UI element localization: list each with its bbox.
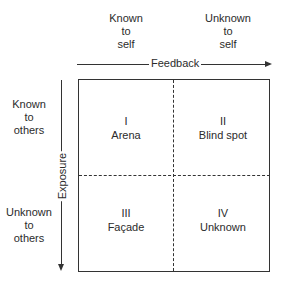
column-header-line: to [200, 25, 256, 38]
row-header-unknown-to-others: Unknown to others [2, 206, 56, 245]
row-header-line: to [2, 219, 56, 232]
horizontal-divider [79, 175, 270, 176]
quadrant-numeral: IV [176, 206, 270, 220]
quadrant-unknown: IV Unknown [176, 206, 270, 234]
quadrant-blind-spot: II Blind spot [176, 114, 270, 142]
column-header-known-to-self: Known to self [102, 12, 150, 51]
column-header-line: self [200, 38, 256, 51]
row-header-line: Known [6, 98, 52, 111]
column-header-line: Unknown [200, 12, 256, 25]
arrow-right-icon [265, 61, 272, 67]
quadrant-numeral: I [80, 114, 172, 128]
quadrant-facade: III Façade [80, 206, 172, 234]
row-header-line: others [6, 124, 52, 137]
column-header-line: to [102, 25, 150, 38]
quadrant-arena: I Arena [80, 114, 172, 142]
feedback-axis-label: Feedback [149, 57, 201, 70]
row-header-known-to-others: Known to others [6, 98, 52, 137]
quadrant-numeral: III [80, 206, 172, 220]
exposure-axis-label: Exposure [56, 151, 69, 201]
column-header-unknown-to-self: Unknown to self [200, 12, 256, 51]
arrow-down-icon [58, 264, 64, 271]
quadrant-name: Blind spot [176, 128, 270, 142]
row-header-line: to [6, 111, 52, 124]
quadrant-numeral: II [176, 114, 270, 128]
column-header-line: Known [102, 12, 150, 25]
quadrant-name: Unknown [176, 220, 270, 234]
row-header-line: others [2, 232, 56, 245]
quadrant-name: Arena [80, 128, 172, 142]
row-header-line: Unknown [2, 206, 56, 219]
quadrant-name: Façade [80, 220, 172, 234]
column-header-line: self [102, 38, 150, 51]
